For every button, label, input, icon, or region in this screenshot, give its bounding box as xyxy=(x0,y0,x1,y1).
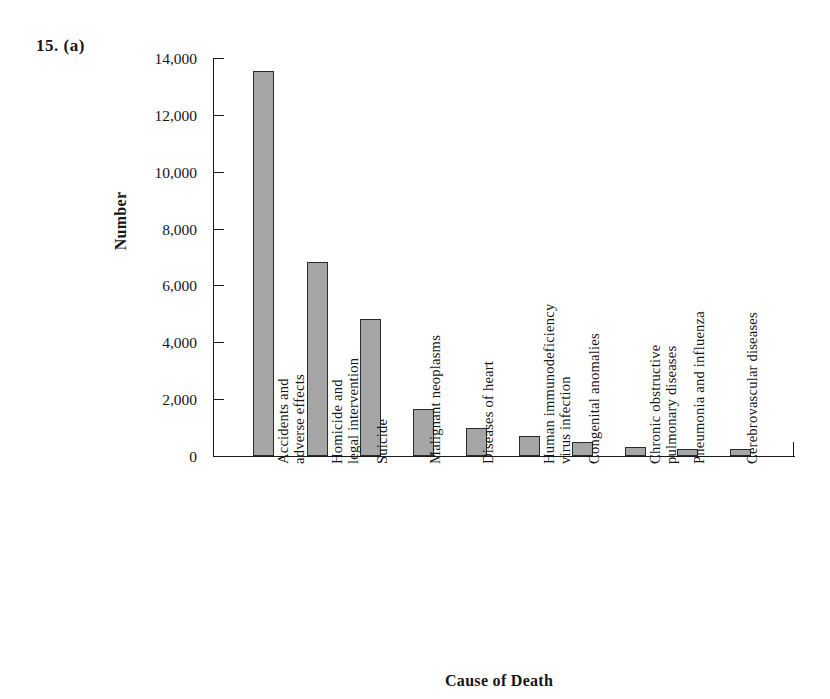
category-label-line: legal intervention xyxy=(345,358,361,464)
category-label-line: virus infection xyxy=(557,304,573,464)
y-axis-tick: 10,000 xyxy=(214,172,224,173)
x-axis-category-label: Human immunodeficiencyvirus infection xyxy=(541,304,573,464)
x-axis-category-label: Pneumonia and influenza xyxy=(691,311,707,464)
category-label-line: Human immunodeficiency xyxy=(541,304,557,464)
x-axis-category-label: Suicide xyxy=(374,419,390,464)
category-label-line: Pneumonia and influenza xyxy=(691,311,707,464)
y-axis-tick-label: 6,000 xyxy=(162,277,197,295)
y-axis-tick: 0 xyxy=(214,456,224,457)
category-label-line: Congenital anomalies xyxy=(586,333,602,464)
x-axis-category-label: Diseases of heart xyxy=(480,361,496,464)
x-axis-category-label: Accidents andadverse effects xyxy=(275,374,307,464)
category-label-line: Homicide and xyxy=(329,379,345,464)
bar xyxy=(253,71,274,456)
y-axis-line xyxy=(213,58,214,456)
x-axis-right-cap xyxy=(793,442,794,456)
category-label-line: Malignant neoplasms xyxy=(427,335,443,464)
y-axis-tick: 14,000 xyxy=(214,58,224,59)
y-axis-tick-label: 4,000 xyxy=(162,334,197,352)
y-axis-tick-label: 0 xyxy=(189,448,197,466)
x-axis-title: Cause of Death xyxy=(445,672,553,690)
x-axis-category-label: Chronic obstructivepulmonary diseases xyxy=(647,345,679,464)
category-label-line: adverse effects xyxy=(291,374,307,464)
category-label-line: Suicide xyxy=(374,419,390,464)
y-axis-tick-label: 14,000 xyxy=(154,50,197,68)
y-axis-tick: 12,000 xyxy=(214,115,224,116)
y-axis-tick-label: 2,000 xyxy=(162,391,197,409)
x-axis-category-label: Homicide andlegal intervention xyxy=(329,358,361,464)
y-axis-tick: 8,000 xyxy=(214,229,224,230)
bar xyxy=(625,447,646,456)
y-axis-title: Number xyxy=(112,192,130,251)
bar xyxy=(307,262,328,456)
x-axis-category-label: Cerebrovascular diseases xyxy=(744,312,760,464)
category-label-line: pulmonary diseases xyxy=(663,345,679,464)
y-axis-tick-label: 8,000 xyxy=(162,221,197,239)
bar xyxy=(519,436,540,456)
y-axis-tick: 2,000 xyxy=(214,399,224,400)
category-label-line: Cerebrovascular diseases xyxy=(744,312,760,464)
x-axis-category-label: Malignant neoplasms xyxy=(427,335,443,464)
y-axis-tick-label: 10,000 xyxy=(154,164,197,182)
bar-chart-figure: Number 14,00012,00010,0008,0006,0004,000… xyxy=(0,0,830,699)
category-label-line: Chronic obstructive xyxy=(647,345,663,464)
y-axis-tick: 6,000 xyxy=(214,285,224,286)
x-axis-category-label: Congenital anomalies xyxy=(586,333,602,464)
category-label-line: Accidents and xyxy=(275,378,291,464)
y-axis-tick-label: 12,000 xyxy=(154,107,197,125)
category-label-line: Diseases of heart xyxy=(480,361,496,464)
y-axis-tick: 4,000 xyxy=(214,342,224,343)
